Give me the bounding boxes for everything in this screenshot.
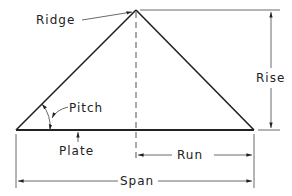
pitch-leader-arrow	[52, 107, 68, 118]
span-label: Span	[120, 174, 154, 188]
rise-label: Rise	[256, 71, 285, 85]
run-label: Run	[177, 148, 203, 162]
pitch-label: Pitch	[69, 101, 103, 115]
roof-diagram: Ridge Rise Pitch Plate Run Span	[0, 0, 292, 196]
pitch-angle-arc	[42, 104, 50, 130]
ridge-leader-arrow	[82, 12, 132, 20]
ridge-label: Ridge	[36, 13, 75, 27]
roof-diagram-drawing	[0, 0, 292, 196]
plate-label: Plate	[59, 144, 94, 158]
roof-triangle	[16, 10, 254, 130]
